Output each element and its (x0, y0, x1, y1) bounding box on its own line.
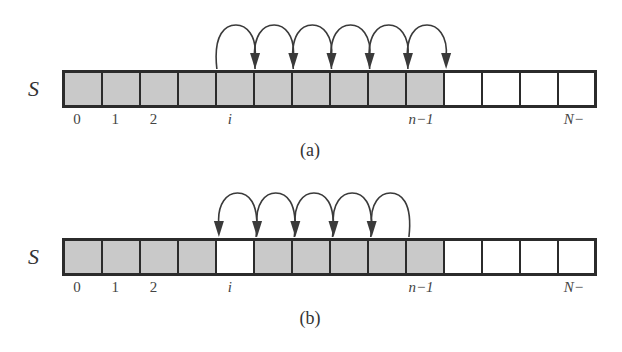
caption-b: (b) (300, 308, 321, 329)
caption-a: (a) (300, 140, 320, 161)
index-label: 1 (112, 279, 120, 296)
index-label: n−1 (408, 279, 433, 296)
panel-b: S 012in−1N− (b) (0, 176, 622, 352)
index-label: N− (564, 279, 584, 296)
index-label: i (228, 111, 232, 128)
index-label: 0 (73, 111, 81, 128)
index-label: 2 (150, 279, 158, 296)
index-label: N− (564, 111, 584, 128)
index-label: 1 (112, 111, 120, 128)
index-label: 0 (73, 279, 81, 296)
index-label: n−1 (408, 111, 433, 128)
index-label: 2 (150, 111, 158, 128)
panel-a: S 012in−1N− (a) (0, 0, 622, 176)
index-label: i (228, 279, 232, 296)
